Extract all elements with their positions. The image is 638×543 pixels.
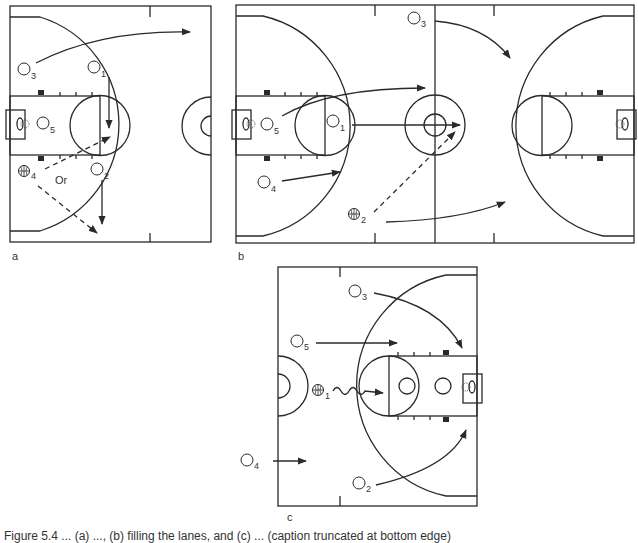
- svg-text:3: 3: [421, 19, 426, 29]
- panel-label-b: b: [238, 250, 244, 262]
- or-annotation: Or: [55, 174, 68, 186]
- panel-label-a: a: [12, 250, 18, 262]
- svg-text:2: 2: [104, 171, 109, 181]
- panel-label-c: c: [287, 511, 293, 523]
- player-1: [327, 115, 339, 127]
- dribble-arrow-1: [333, 388, 383, 395]
- svg-text:3: 3: [31, 71, 36, 81]
- svg-text:1: 1: [101, 69, 106, 79]
- svg-text:5: 5: [50, 125, 55, 135]
- panel-c: [273, 267, 482, 506]
- backboard: [6, 110, 25, 139]
- player-4: [258, 176, 270, 188]
- player-5: [37, 117, 49, 129]
- player-1-with-ball: [313, 385, 324, 396]
- svg-text:2: 2: [361, 215, 366, 225]
- svg-text:4: 4: [254, 461, 259, 471]
- panel-c-players: 3 5 1 4 2: [241, 285, 371, 494]
- player-4: [241, 454, 253, 466]
- cut-arrow-2: [376, 430, 466, 485]
- court-boundary: [10, 6, 211, 242]
- hoop: [17, 118, 23, 130]
- player-4-with-ball: [19, 166, 30, 177]
- player-5: [261, 118, 273, 130]
- figure-caption: Figure 5.4 ... (a) ..., (b) filling the …: [4, 529, 451, 543]
- svg-text:5: 5: [274, 126, 279, 136]
- player-2: [353, 477, 365, 489]
- player-3: [18, 63, 30, 75]
- cut-arrow-2: [386, 202, 505, 222]
- player-2: [91, 163, 103, 175]
- cut-arrow-5: [282, 88, 425, 116]
- panel-b: [232, 5, 636, 243]
- svg-text:3: 3: [362, 292, 367, 302]
- cut-arrow-3: [36, 32, 190, 63]
- svg-text:5: 5: [304, 342, 309, 352]
- cut-arrow-3: [374, 293, 462, 348]
- player-3: [408, 12, 420, 24]
- player-3: [349, 285, 361, 297]
- pass-arrow-4-to-2: [38, 186, 97, 233]
- svg-text:1: 1: [325, 391, 330, 401]
- panel-a-players: 3 1 5 4 2 Or: [18, 61, 109, 186]
- svg-text:4: 4: [31, 171, 36, 181]
- svg-text:2: 2: [366, 484, 371, 494]
- panel-b-players: 3 5 1 4 2: [258, 12, 426, 225]
- svg-text:1: 1: [340, 123, 345, 133]
- cut-arrow-4: [282, 172, 340, 181]
- player-2-with-ball: [349, 209, 360, 220]
- cut-arrow-3: [435, 21, 510, 58]
- pass-arrow-2: [374, 132, 455, 212]
- player-1: [88, 61, 100, 73]
- player-5: [291, 335, 303, 347]
- svg-text:4: 4: [271, 184, 276, 194]
